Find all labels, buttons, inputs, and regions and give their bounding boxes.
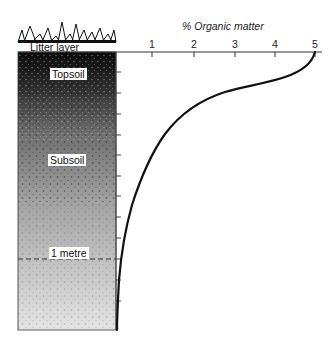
x-tick-label-5: 5	[312, 38, 318, 50]
litter-layer-label: Litter layer	[30, 41, 79, 53]
x-tick-label-1: 1	[149, 38, 155, 50]
x-axis-ticks	[152, 52, 315, 57]
subsoil-label: Subsoil	[48, 154, 86, 166]
one-metre-label: 1 metre	[49, 247, 89, 259]
topsoil-label: Topsoil	[50, 68, 87, 80]
x-tick-label-4: 4	[272, 38, 278, 50]
organic-matter-curve	[117, 52, 315, 330]
x-axis-title: % Organic matter	[182, 20, 264, 32]
x-tick-label-3: 3	[232, 38, 238, 50]
x-tick-label-2: 2	[191, 38, 197, 50]
grass-icon	[18, 22, 116, 42]
